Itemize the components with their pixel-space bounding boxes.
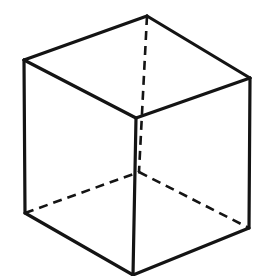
necker-cube-figure: [0, 0, 271, 276]
left-vertical-edge-path: [24, 60, 25, 213]
cube-drawing-svg: [0, 0, 271, 276]
right-vertical-edge-path: [249, 78, 250, 228]
